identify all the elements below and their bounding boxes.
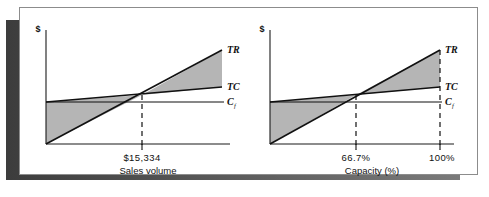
series-label-cf-subscript-right-chart: f [452,102,455,109]
series-label-cf-right-chart: C [445,96,452,107]
y-axis-unit-left-chart: $ [35,24,40,34]
break-even-charts-svg: TR TC C f $ $15,334 Sales volume [20,8,479,176]
y-axis-unit-right-chart: $ [259,24,264,34]
x-tick-breakeven-right-chart: 66.7% [342,152,371,163]
series-label-tr-right-chart: TR [445,44,458,55]
tc-line-left-chart [46,87,222,102]
series-label-tc-left-chart: TC [227,81,240,92]
series-label-cf-left-chart: C [227,96,234,107]
chart-sales-volume: TR TC C f $ $15,334 Sales volume [35,24,240,176]
tc-line-right-chart [270,87,440,102]
series-label-cf-subscript-left-chart: f [234,102,237,109]
series-label-tc-right-chart: TC [445,81,458,92]
charts-container: TR TC C f $ $15,334 Sales volume [20,8,479,176]
x-tick-breakeven-left-chart: $15,334 [123,152,160,163]
tr-line-left-chart [46,50,222,144]
figure-root: TR TC C f $ $15,334 Sales volume [0,0,489,197]
series-label-tr-left-chart: TR [227,44,240,55]
x-axis-title-right-chart: Capacity (%) [345,165,399,176]
x-axis-title-left-chart: Sales volume [119,165,176,176]
tr-line-right-chart [270,50,440,144]
chart-capacity: TR TC C f $ 66.7% 100% Capacity (%) [259,24,458,176]
x-tick-capacity-right-chart: 100% [429,152,455,163]
figure-card: TR TC C f $ $15,334 Sales volume [19,7,478,175]
